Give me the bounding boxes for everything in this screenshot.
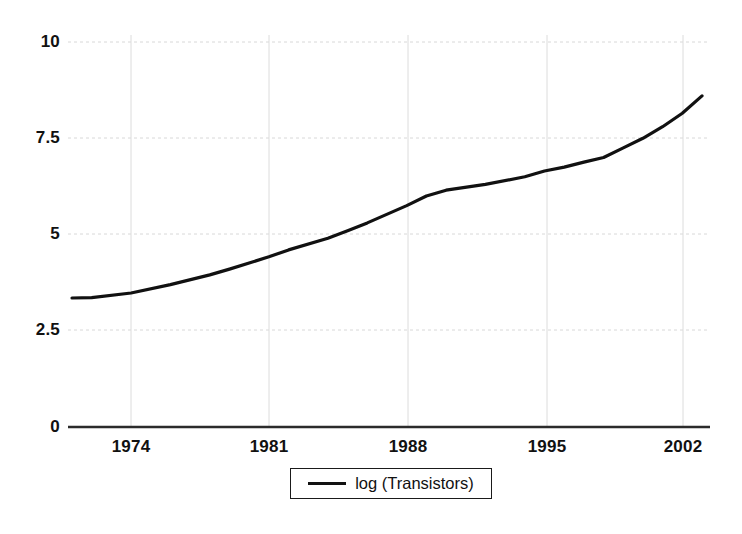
chart-container: 10 7.5 5 2.5 0 1974 1981 1988 1995 2002 … (0, 0, 742, 534)
x-axis-tick-1995: 1995 (507, 437, 587, 457)
x-axis-tick-1974: 1974 (91, 437, 171, 457)
legend-line-marker-icon (308, 482, 346, 485)
y-axis-tick-5: 5 (10, 224, 60, 244)
x-axis-tick-1988: 1988 (368, 437, 448, 457)
vertical-gridlines (131, 35, 683, 426)
x-axis-tick-2002: 2002 (643, 437, 723, 457)
chart-legend: log (Transistors) (290, 468, 492, 499)
legend-label-log-transistors: log (Transistors) (355, 475, 474, 492)
y-axis-tick-10: 10 (10, 32, 60, 52)
x-axis-tick-1981: 1981 (229, 437, 309, 457)
y-axis-tick-2p5: 2.5 (10, 320, 60, 340)
y-axis-tick-0: 0 (10, 417, 60, 437)
data-series-log-transistors (72, 96, 702, 298)
y-axis-tick-7p5: 7.5 (10, 128, 60, 148)
